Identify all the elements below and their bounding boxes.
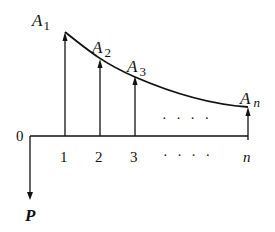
ellipsis-upper: · · · · [162, 111, 212, 126]
tick-1: 1 [60, 149, 68, 165]
label-a1: A1 [31, 11, 50, 33]
tick-3: 3 [130, 149, 138, 165]
horizontal-axis [30, 136, 248, 140]
diagram-canvas: A1 A2 A3 An · · · · 0 1 2 3 · · · · n P [0, 0, 275, 232]
label-a3: A3 [126, 57, 146, 79]
label-a2: A2 [91, 38, 111, 60]
force-p-label: P [24, 206, 36, 225]
label-an: An [239, 89, 260, 110]
origin-label: 0 [16, 128, 24, 144]
tick-n: n [243, 149, 251, 165]
force-p-arrow [27, 136, 33, 200]
tick-2: 2 [95, 149, 103, 165]
ellipsis-lower: · · · · [163, 148, 213, 163]
vertical-arrows [63, 32, 251, 136]
